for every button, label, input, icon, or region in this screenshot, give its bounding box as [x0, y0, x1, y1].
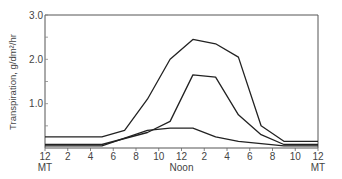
x-tick-label: 12	[39, 151, 51, 162]
x-tick-label: 12	[312, 151, 324, 162]
series-line-upper	[45, 39, 318, 141]
x-tick-label: 6	[247, 151, 253, 162]
x-tick-label: 2	[201, 151, 207, 162]
x-tick-label: 2	[65, 151, 71, 162]
x-tick-label: 4	[224, 151, 230, 162]
transpiration-chart: 1.02.03.0 12MT24681012Noon24681012MT Tra…	[0, 0, 342, 179]
data-series	[45, 39, 318, 145]
x-tick-label: 8	[133, 151, 139, 162]
series-line-middle	[45, 75, 318, 145]
y-axis-label: Transpiration, g/dm²/hr	[7, 34, 18, 130]
x-tick-sublabel: Noon	[170, 162, 194, 173]
x-axis: 12MT24681012Noon24681012MT	[38, 148, 325, 173]
x-tick-label: 4	[88, 151, 94, 162]
x-tick-label: 12	[176, 151, 188, 162]
x-tick-sublabel: MT	[38, 162, 52, 173]
x-tick-label: 10	[153, 151, 165, 162]
x-tick-label: 10	[290, 151, 302, 162]
y-tick-label: 3.0	[29, 10, 43, 21]
x-tick-sublabel: MT	[311, 162, 325, 173]
x-tick-label: 6	[110, 151, 116, 162]
x-tick-label: 8	[270, 151, 276, 162]
y-tick-label: 1.0	[29, 98, 43, 109]
y-tick-label: 2.0	[29, 54, 43, 65]
